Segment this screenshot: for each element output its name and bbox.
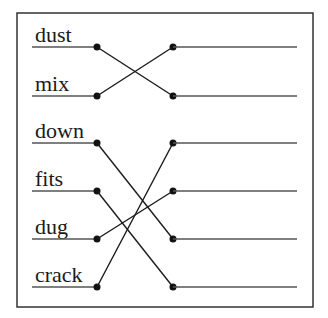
right-slot-5[interactable] <box>170 284 298 291</box>
word-label: dust <box>35 22 72 47</box>
right-slot-3[interactable] <box>170 188 298 195</box>
word-label: crack <box>35 262 83 287</box>
right-slot-2[interactable] <box>170 140 298 147</box>
word-label: down <box>35 118 84 143</box>
connections <box>97 47 173 287</box>
right-slot-4[interactable] <box>170 236 298 243</box>
left-item-1[interactable]: mix <box>32 71 101 100</box>
left-item-4[interactable]: dug <box>32 214 101 243</box>
connection-crack <box>97 143 173 287</box>
left-item-3[interactable]: fits <box>32 166 101 195</box>
matching-diagram: dust mix down fits dug crack <box>0 0 328 318</box>
word-label: fits <box>35 166 63 191</box>
connection-down <box>97 143 173 239</box>
word-label: mix <box>35 71 69 96</box>
connection-fits <box>97 191 173 287</box>
left-item-0[interactable]: dust <box>32 22 101 51</box>
right-slot-0[interactable] <box>170 44 298 51</box>
left-item-2[interactable]: down <box>32 118 101 147</box>
right-slot-1[interactable] <box>170 93 298 100</box>
word-label: dug <box>35 214 68 239</box>
left-item-5[interactable]: crack <box>32 262 101 291</box>
